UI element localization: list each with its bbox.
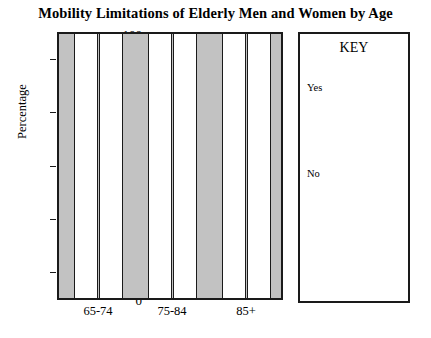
y-minor-tick-90 [50,59,56,60]
legend-key-box: KEY Yes No [298,32,410,303]
x-tick-label-85plus: 85+ [206,304,286,319]
x-tick-label-65-74: 65-74 [58,304,138,319]
plot-area [57,32,283,300]
y-minor-tick-10 [50,272,56,273]
chart-title: Mobility Limitations of Elderly Men and … [0,5,431,22]
x-tick-label-75-84: 75-84 [132,304,212,319]
y-minor-tick-50 [50,166,56,167]
chart-figure: Mobility Limitations of Elderly Men and … [0,0,431,338]
bars-layer [59,34,281,298]
legend-entry-no: No [307,168,320,179]
legend-entry-yes: Yes [307,82,322,93]
bar-65-74-yes [74,34,98,298]
bar-65-74-no [99,34,123,298]
bar-85plus-yes [222,34,246,298]
bar-75-84-no [173,34,197,298]
y-axis-label: Percentage [15,52,30,172]
bar-75-84-yes [148,34,172,298]
bar-85plus-no [247,34,271,298]
y-minor-tick-30 [50,219,56,220]
legend-title: KEY [300,40,408,56]
y-minor-tick-70 [50,112,56,113]
